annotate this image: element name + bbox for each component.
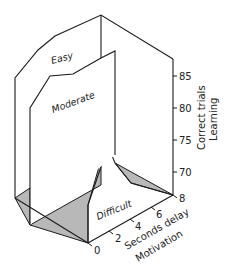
x-tick-0 bbox=[88, 243, 92, 246]
y-tick-label-80: 80 bbox=[179, 103, 192, 114]
x-tick-2 bbox=[109, 231, 113, 234]
label-difficult: Difficult bbox=[95, 197, 135, 222]
x-tick-6 bbox=[151, 207, 155, 210]
moderate-surface bbox=[30, 51, 115, 225]
y-axis-title-1: Correct trials bbox=[196, 85, 207, 150]
difficult-surface-right bbox=[115, 163, 173, 195]
y-tick-label-85: 85 bbox=[179, 71, 192, 82]
x-tick-label-6: 6 bbox=[156, 209, 162, 220]
y-bottom-label-8: 8 bbox=[179, 193, 185, 204]
x-tick-label-2: 2 bbox=[115, 233, 121, 244]
label-easy: Easy bbox=[50, 49, 75, 66]
y-tick-label-70: 70 bbox=[179, 167, 192, 178]
y-tick-label-75: 75 bbox=[179, 135, 192, 146]
yerkes-dodson-3d-chart: 85 80 75 70 Correct trials Learning 0 2 … bbox=[0, 0, 231, 269]
x-tick-label-4: 4 bbox=[135, 221, 141, 232]
y-axis-title-2: Learning bbox=[208, 98, 219, 141]
x-tick-8 bbox=[173, 195, 177, 198]
x-tick-label-0: 0 bbox=[94, 245, 100, 256]
x-tick-4 bbox=[130, 219, 134, 222]
